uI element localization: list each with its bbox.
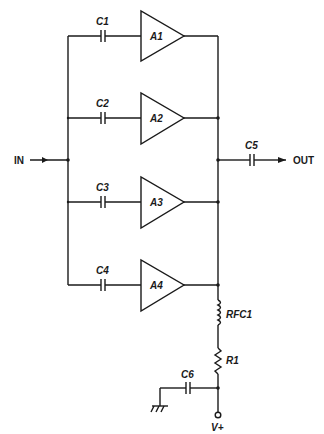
resistor-label: R1 <box>226 355 239 366</box>
inductor-rfc1: RFC1 <box>218 300 253 348</box>
amp-label: A3 <box>149 197 163 208</box>
arrow-icon <box>278 157 286 163</box>
amp-row-4: C4 A4 <box>68 260 220 311</box>
supply-label: V+ <box>211 422 224 433</box>
amp-label: A4 <box>149 280 163 291</box>
cap-label: C1 <box>96 16 109 27</box>
amp-label: A2 <box>149 113 163 124</box>
cap-label: C6 <box>181 369 194 380</box>
cap-label: C5 <box>245 140 258 151</box>
ground-icon <box>151 406 168 412</box>
cap-label: C2 <box>96 98 109 109</box>
resistor-r1: R1 <box>215 348 239 412</box>
cap-label: C3 <box>96 182 109 193</box>
supply-terminal: V+ <box>211 412 224 433</box>
input-label: IN <box>14 155 24 166</box>
amp-row-1: C1 A1 <box>68 11 218 61</box>
amp-label: A1 <box>149 31 163 42</box>
bypass-cap-c6: C6 <box>160 369 220 406</box>
input-node: IN <box>14 155 70 166</box>
amp-row-2: C2 A2 <box>67 93 220 144</box>
inductor-label: RFC1 <box>226 309 253 320</box>
amp-row-3: C3 A3 <box>67 177 220 228</box>
cap-label: C4 <box>96 265 109 276</box>
schematic: IN C1 A1 C2 A2 C3 A3 <box>0 0 324 434</box>
output-node: C5 OUT <box>216 140 314 166</box>
output-label: OUT <box>293 155 314 166</box>
arrow-icon <box>42 157 48 163</box>
